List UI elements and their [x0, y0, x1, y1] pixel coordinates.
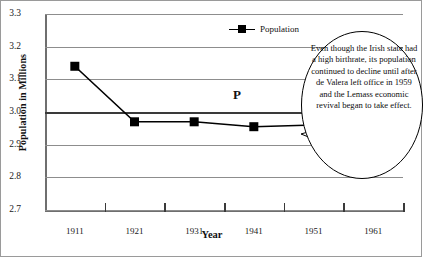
data-point-marker — [70, 62, 79, 71]
y-tick-label: 3.0 — [0, 106, 21, 116]
legend: Population — [229, 24, 299, 34]
data-point-marker — [190, 117, 199, 126]
y-tick-label: 2.7 — [0, 204, 21, 214]
y-tick-label: 2.9 — [0, 139, 21, 149]
callout-text: Even though the Irish state had a high b… — [309, 43, 419, 111]
data-point-marker — [249, 122, 258, 131]
legend-marker-icon — [229, 24, 255, 34]
y-tick-label: 3.3 — [0, 8, 21, 18]
data-point-marker — [130, 117, 139, 126]
legend-label-population: Population — [260, 24, 299, 34]
point-annotation-label: P — [233, 87, 241, 103]
callout-annotation: Even though the Irish state had a high b… — [301, 31, 423, 183]
y-tick-label: 2.8 — [0, 171, 21, 181]
y-tick-label: 3.1 — [0, 73, 21, 83]
y-tick-label: 3.2 — [0, 41, 21, 51]
x-axis-title: Year — [1, 229, 423, 240]
x-tick-mark — [403, 203, 405, 212]
